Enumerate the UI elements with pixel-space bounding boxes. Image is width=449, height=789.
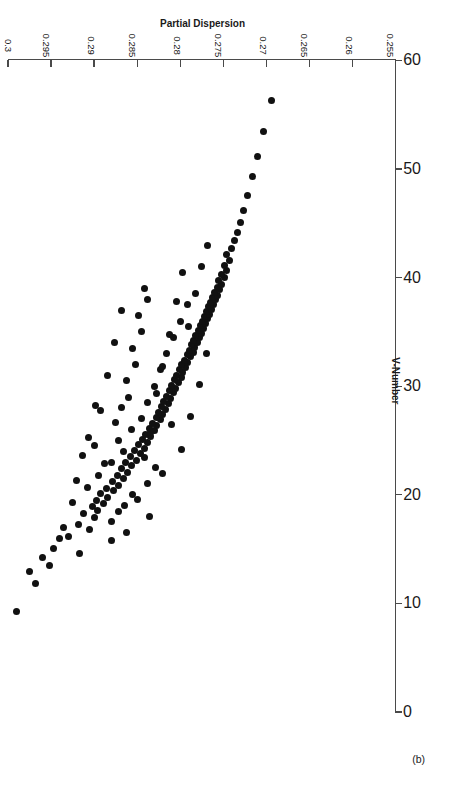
data-point [95,472,102,479]
data-point [108,518,115,525]
data-point [184,301,191,308]
data-point [93,497,100,504]
data-point [120,475,127,482]
data-point [91,514,98,521]
data-point [133,457,140,464]
data-point [260,128,267,135]
data-point [75,521,82,528]
data-point [120,448,127,455]
data-point [228,245,235,252]
data-point [46,562,53,569]
data-point [244,192,251,199]
data-point [97,490,104,497]
data-point [160,363,167,370]
data-point [80,510,87,517]
data-point [146,513,153,520]
data-point [141,285,148,292]
data-point [129,345,136,352]
data-point [39,554,46,561]
data-point [56,535,63,542]
data-point [86,526,93,533]
data-point [98,407,105,414]
figure-rotation-wrapper: 0102030405060 0.2550.260.2650.270.2750.2… [0,0,449,789]
data-point [234,229,241,236]
data-point [121,502,128,509]
data-point [108,537,115,544]
data-point [151,383,158,390]
data-point [177,318,184,325]
data-point [104,494,111,501]
data-point [85,434,92,441]
data-point [237,219,244,226]
data-point [178,446,185,453]
data-point [138,328,145,335]
data-point [123,377,130,384]
data-point [115,482,122,489]
data-point [173,298,180,305]
data-point [152,464,159,471]
data-point [79,452,86,459]
data-point [104,372,111,379]
data-point [138,415,145,422]
data-point [114,472,121,479]
data-point [240,207,247,214]
data-point [118,307,125,314]
data-point-layer [0,0,449,789]
data-point [168,421,175,428]
data-point [160,470,167,477]
data-point [109,478,116,485]
scatter-plot: 0102030405060 0.2550.260.2650.270.2750.2… [0,0,449,789]
data-point [111,339,118,346]
data-point [153,390,160,397]
data-point [32,580,39,587]
data-point [115,437,122,444]
data-point [123,529,130,536]
data-point [203,350,210,357]
data-point [91,442,98,449]
data-point [268,97,275,104]
data-point [69,499,76,506]
data-point [76,550,83,557]
data-point [135,312,142,319]
data-point [144,296,151,303]
data-point [13,608,20,615]
data-point [185,323,192,330]
data-point [101,460,108,467]
data-point [144,399,151,406]
data-point [132,361,139,368]
data-point [198,263,205,270]
data-point [100,500,107,507]
data-point [108,459,115,466]
data-point [187,413,194,420]
data-point [60,524,67,531]
data-point [118,404,125,411]
data-point [73,477,80,484]
data-point [134,496,141,503]
data-point [254,153,261,160]
data-point [179,269,186,276]
data-point [115,508,122,515]
data-point [144,480,151,487]
data-point [26,568,33,575]
data-point [112,419,119,426]
data-point [192,290,199,297]
data-point [141,454,148,461]
data-point [84,484,91,491]
data-point [50,545,57,552]
data-point [196,381,203,388]
data-point [129,426,136,433]
data-point [65,533,72,540]
data-point [103,485,110,492]
data-point [163,350,170,357]
data-point [124,469,131,476]
data-point [249,173,256,180]
data-point [125,394,132,401]
data-point [204,242,211,249]
data-point [231,237,238,244]
